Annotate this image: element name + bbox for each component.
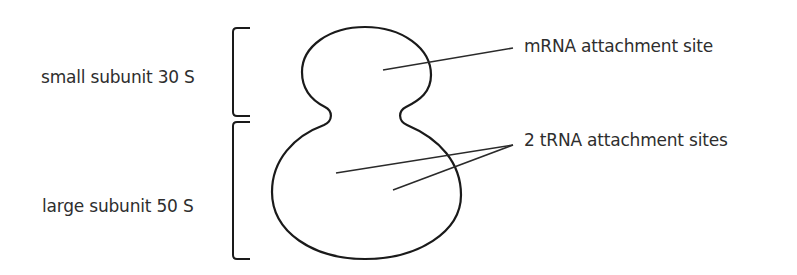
mrna-site-label: mRNA attachment site — [524, 38, 713, 55]
trna-leader-line-2 — [393, 145, 513, 190]
trna-leader-line-1 — [336, 145, 513, 173]
trna-sites-label: 2 tRNA attachment sites — [524, 132, 728, 149]
small-subunit-bracket — [233, 28, 250, 116]
large-subunit-label: large subunit 50 S — [42, 198, 193, 215]
large-subunit-bracket — [233, 122, 250, 259]
small-subunit-label: small subunit 30 S — [41, 69, 195, 86]
mrna-leader-line — [383, 48, 513, 70]
